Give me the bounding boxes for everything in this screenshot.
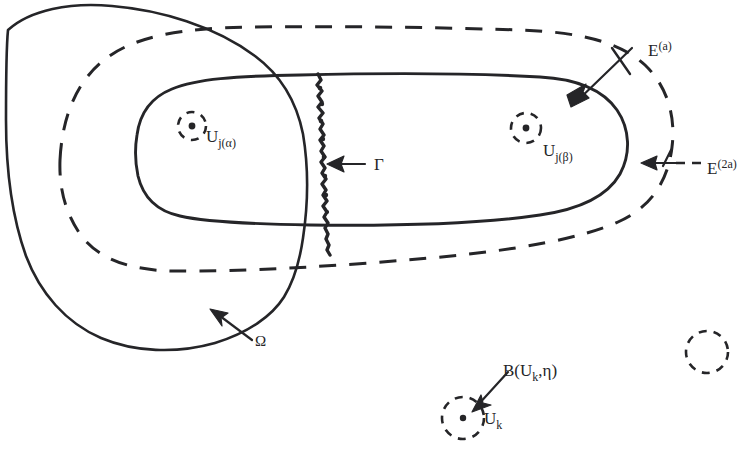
label-e-2a: E(2a) bbox=[707, 158, 737, 177]
label-u-k-subscript: k bbox=[496, 418, 502, 432]
label-u-j-beta: Uj(β) bbox=[543, 142, 573, 163]
omega-arrow-head bbox=[210, 309, 228, 326]
omega-boundary-path bbox=[6, 5, 307, 350]
label-e-2a-base: E bbox=[707, 159, 717, 178]
u-j-alpha-center-dot bbox=[189, 123, 196, 130]
gamma-bead bbox=[320, 102, 324, 106]
label-e-a: E(a) bbox=[648, 40, 672, 59]
unlabeled-ball-circle bbox=[686, 331, 728, 373]
label-b-uk-head: B(U bbox=[503, 361, 532, 380]
label-omega: Ω bbox=[255, 334, 266, 349]
e-2a-arrow-head bbox=[641, 156, 657, 170]
gamma-bead bbox=[323, 174, 327, 178]
gamma-bead bbox=[322, 155, 327, 160]
label-e-a-base: E bbox=[648, 41, 658, 60]
gamma-bead bbox=[324, 193, 328, 197]
u-j-beta-center-dot bbox=[523, 125, 530, 132]
gamma-bead bbox=[321, 137, 325, 141]
diagram-canvas bbox=[0, 0, 751, 455]
gamma-bead bbox=[318, 86, 323, 91]
label-gamma: Γ bbox=[374, 156, 384, 173]
label-b-uk-eta: B(Uk,η) bbox=[503, 362, 557, 383]
gamma-arrow-head bbox=[327, 156, 344, 172]
label-u-k: Uk bbox=[484, 410, 502, 431]
label-e-2a-exponent: (2a) bbox=[717, 157, 736, 171]
label-u-j-alpha-subscript: j(α) bbox=[218, 136, 236, 150]
figure-root: E(a) E(2a) Uj(α) Uj(β) Γ Ω B(Uk,η) Uk bbox=[0, 0, 751, 455]
label-e-a-exponent: (a) bbox=[658, 39, 671, 53]
label-u-k-base: U bbox=[484, 409, 496, 428]
label-u-j-beta-base: U bbox=[543, 141, 555, 160]
gamma-bead bbox=[319, 119, 324, 124]
gamma-bead bbox=[325, 210, 329, 214]
e-2a-boundary-path bbox=[60, 27, 673, 271]
label-u-j-alpha-base: U bbox=[206, 127, 218, 146]
label-u-j-beta-subscript: j(β) bbox=[555, 150, 572, 164]
u-k-center-dot bbox=[460, 415, 466, 421]
label-b-uk-tail: ,η) bbox=[538, 361, 557, 380]
label-u-j-alpha: Uj(α) bbox=[206, 128, 236, 149]
